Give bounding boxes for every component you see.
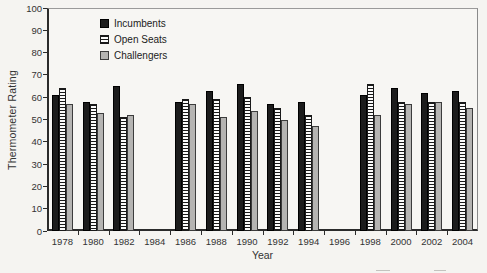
y-tick-label-40: 40 [6, 137, 42, 146]
y-tick-50 [43, 119, 47, 120]
y-tick-80 [43, 52, 47, 53]
x-tick-label-1996: 1996 [323, 236, 355, 247]
bar-open-seats-1980 [90, 104, 97, 231]
bar-incumbents-1988 [206, 91, 213, 231]
legend-label: Incumbents [114, 18, 166, 29]
y-tick-60 [43, 97, 47, 98]
y-tick-20 [43, 186, 47, 187]
x-tick-label-2004: 2004 [447, 236, 479, 247]
x-tick-label-1992: 1992 [262, 236, 294, 247]
legend-swatch-icon [100, 35, 109, 44]
x-tick-13 [447, 231, 448, 235]
bar-open-seats-1982 [120, 117, 127, 231]
x-tick-10 [355, 231, 356, 235]
bar-open-seats-1986 [182, 99, 189, 231]
legend-item-open-seats: Open Seats [100, 31, 167, 47]
bar-incumbents-1998 [360, 95, 367, 231]
y-tick-label-90: 90 [6, 26, 42, 35]
bar-open-seats-1998 [367, 84, 374, 231]
x-tick-2 [109, 231, 110, 235]
bar-incumbents-1990 [237, 84, 244, 231]
bar-challengers-2000 [405, 104, 412, 231]
x-axis-title: Year [47, 249, 478, 261]
x-tick-3 [139, 231, 140, 235]
bar-challengers-2002 [435, 102, 442, 231]
bar-incumbents-1994 [298, 102, 305, 231]
x-tick-label-1978: 1978 [46, 236, 78, 247]
bar-incumbents-1978 [52, 95, 59, 231]
bar-challengers-1980 [97, 113, 104, 231]
bar-challengers-1986 [189, 104, 196, 231]
bar-open-seats-2000 [398, 102, 405, 231]
bar-challengers-1988 [220, 117, 227, 231]
x-tick-label-1980: 1980 [77, 236, 109, 247]
x-tick-label-1988: 1988 [200, 236, 232, 247]
x-tick-label-1998: 1998 [354, 236, 386, 247]
x-tick-label-1982: 1982 [108, 236, 140, 247]
legend-swatch-icon [100, 19, 109, 28]
y-tick-10 [43, 208, 47, 209]
legend-label: Challengers [114, 50, 167, 61]
x-tick-7 [263, 231, 264, 235]
bar-challengers-2004 [466, 108, 473, 231]
bar-incumbents-2004 [452, 91, 459, 231]
scan-artifact [434, 270, 446, 271]
bar-incumbents-1982 [113, 86, 120, 231]
x-tick-4 [170, 231, 171, 235]
x-tick-8 [293, 231, 294, 235]
y-tick-90 [43, 30, 47, 31]
y-tick-30 [43, 164, 47, 165]
bar-challengers-1978 [66, 104, 73, 231]
scan-artifact [376, 270, 390, 271]
x-tick-1 [78, 231, 79, 235]
x-tick-label-1986: 1986 [170, 236, 202, 247]
bar-challengers-1990 [251, 111, 258, 231]
legend: IncumbentsOpen SeatsChallengers [100, 15, 167, 63]
y-tick-0 [43, 231, 47, 232]
legend-swatch-icon [100, 51, 109, 60]
bar-incumbents-1986 [175, 102, 182, 231]
y-tick-label-20: 20 [6, 182, 42, 191]
bar-incumbents-1992 [267, 104, 274, 231]
x-tick-label-2002: 2002 [416, 236, 448, 247]
bar-incumbents-1980 [83, 102, 90, 231]
legend-label: Open Seats [114, 34, 167, 45]
bar-incumbents-2002 [421, 93, 428, 231]
x-tick-11 [386, 231, 387, 235]
y-tick-label-70: 70 [6, 70, 42, 79]
y-tick-100 [43, 8, 47, 9]
legend-item-incumbents: Incumbents [100, 15, 167, 31]
bar-challengers-1982 [127, 115, 134, 231]
x-tick-6 [232, 231, 233, 235]
bar-open-seats-2002 [428, 102, 435, 231]
y-tick-label-10: 10 [6, 204, 42, 213]
x-tick-5 [201, 231, 202, 235]
bar-open-seats-1992 [274, 108, 281, 231]
bar-challengers-1992 [281, 120, 288, 232]
x-tick-label-1990: 1990 [231, 236, 263, 247]
x-tick-9 [324, 231, 325, 235]
y-tick-label-60: 60 [6, 93, 42, 102]
bar-challengers-1994 [312, 126, 319, 231]
y-tick-label-30: 30 [6, 160, 42, 169]
bar-open-seats-1988 [213, 99, 220, 231]
bar-open-seats-1994 [305, 115, 312, 231]
y-tick-label-50: 50 [6, 115, 42, 124]
thermometer-rating-bar-chart: Thermometer Rating Year 0102030405060708… [0, 0, 487, 273]
bar-open-seats-1990 [244, 97, 251, 231]
x-tick-label-1994: 1994 [293, 236, 325, 247]
y-tick-40 [43, 141, 47, 142]
bar-open-seats-1978 [59, 88, 66, 231]
y-tick-label-80: 80 [6, 48, 42, 57]
bar-open-seats-2004 [459, 102, 466, 231]
y-tick-70 [43, 74, 47, 75]
x-tick-12 [416, 231, 417, 235]
legend-item-challengers: Challengers [100, 47, 167, 63]
x-tick-label-1984: 1984 [139, 236, 171, 247]
x-tick-label-2000: 2000 [385, 236, 417, 247]
y-tick-label-0: 0 [6, 227, 42, 236]
bar-incumbents-2000 [391, 88, 398, 231]
bar-challengers-1998 [374, 115, 381, 231]
y-tick-label-100: 100 [6, 4, 42, 13]
